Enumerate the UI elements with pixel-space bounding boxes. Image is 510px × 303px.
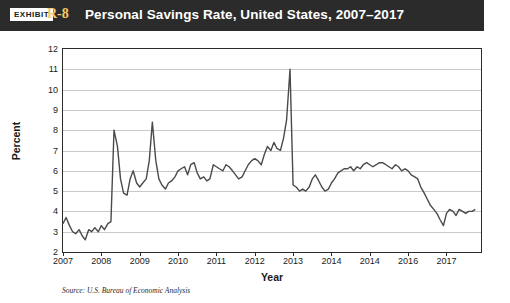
x-tick-label: 2008 <box>91 256 111 266</box>
y-axis-title: Percent <box>10 122 22 161</box>
x-tick-label: 2007 <box>53 256 73 266</box>
savings-rate-line <box>63 49 481 252</box>
exhibit-header-bar: EXHIBIT R-8 Personal Savings Rate, Unite… <box>0 0 484 31</box>
x-tick-label: 2014 <box>321 256 341 266</box>
x-tick-label: 2010 <box>168 256 188 266</box>
x-tick-label: 2017 <box>436 256 456 266</box>
x-tick-label: 2014 <box>360 256 380 266</box>
y-tick-label: 11 <box>49 64 58 74</box>
y-tick-label: 10 <box>48 85 58 95</box>
y-tick-label: 12 <box>48 44 58 54</box>
x-axis-title: Year <box>261 271 283 283</box>
y-tick-label: 5 <box>53 186 58 196</box>
y-tick-label: 8 <box>53 125 58 135</box>
source-note: Source: U.S. Bureau of Economic Analysis <box>62 286 190 295</box>
y-tick-label: 9 <box>53 105 58 115</box>
x-tick-label: 2016 <box>398 256 418 266</box>
exhibit-figure: EXHIBIT R-8 Personal Savings Rate, Unite… <box>0 0 510 303</box>
series-path <box>63 69 475 240</box>
y-tick-label: 6 <box>53 166 58 176</box>
plot-area: 2345678910111220072008200920102011201220… <box>62 48 482 253</box>
x-tick-label: 2012 <box>245 256 265 266</box>
y-tick-label: 7 <box>53 146 58 156</box>
y-tick-label: 3 <box>53 227 58 237</box>
x-tick-label: 2011 <box>207 256 226 266</box>
exhibit-title: Personal Savings Rate, United States, 20… <box>85 7 404 22</box>
x-tick-label: 2013 <box>283 256 303 266</box>
chart-container: Percent Year 234567891011122007200820092… <box>0 31 510 303</box>
y-tick-label: 4 <box>53 206 58 216</box>
x-tick-label: 2009 <box>130 256 150 266</box>
exhibit-number: R-8 <box>47 6 69 22</box>
